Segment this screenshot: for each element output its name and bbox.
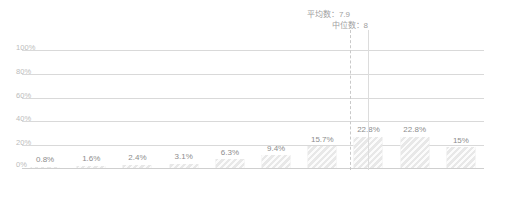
- bar-10[interactable]: [446, 147, 475, 168]
- bar-value-10: 15%: [453, 137, 469, 145]
- survey-distribution-chart: 100% 80% 60% 40% 20% 0% 0.8% 1 (非常不… 1.6…: [0, 0, 506, 198]
- bar-value-6: 9.4%: [267, 145, 285, 153]
- bar-value-4: 3.1%: [175, 153, 193, 161]
- bar-group-3[interactable]: 2.4% 3: [114, 30, 160, 168]
- bar-7[interactable]: [308, 146, 337, 168]
- bar-value-9: 22.8%: [403, 126, 426, 134]
- median-reference-line: [368, 30, 369, 170]
- bar-2[interactable]: [77, 166, 106, 168]
- median-annotation-label: 中位数：8: [310, 21, 368, 32]
- bar-group-1[interactable]: 0.8% 1 (非常不…: [22, 30, 68, 168]
- bar-1[interactable]: [31, 167, 60, 168]
- bar-value-5: 6.3%: [221, 149, 239, 157]
- bar-group-7[interactable]: 15.7% 7: [299, 30, 345, 168]
- bar-group-2[interactable]: 1.6% 2: [68, 30, 114, 168]
- bar-group-6[interactable]: 9.4% 6: [253, 30, 299, 168]
- mean-annotation-label: 平均数：7.9: [292, 10, 350, 21]
- bars-layer: 0.8% 1 (非常不… 1.6% 2 2.4% 3 3.1% 4 6.3% 5…: [22, 0, 484, 198]
- bar-value-1: 0.8%: [36, 156, 54, 164]
- mean-reference-line: [350, 30, 351, 170]
- bar-value-3: 2.4%: [128, 154, 146, 162]
- bar-value-7: 15.7%: [311, 136, 334, 144]
- bar-3[interactable]: [123, 165, 152, 168]
- bar-group-9[interactable]: 22.8% 9: [392, 30, 438, 168]
- bar-6[interactable]: [262, 155, 291, 168]
- bar-5[interactable]: [215, 159, 244, 168]
- bar-9[interactable]: [400, 137, 429, 169]
- bar-group-4[interactable]: 3.1% 4: [161, 30, 207, 168]
- bar-value-2: 1.6%: [82, 155, 100, 163]
- bar-group-5[interactable]: 6.3% 5: [207, 30, 253, 168]
- bar-4[interactable]: [169, 164, 198, 168]
- bar-group-10[interactable]: 15% 10 (非常认…: [438, 30, 484, 168]
